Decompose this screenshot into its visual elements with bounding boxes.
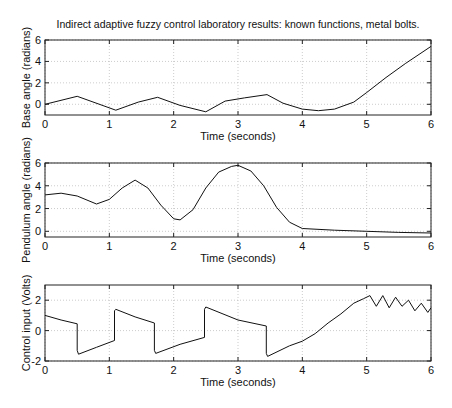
x-tick-label: 2	[171, 364, 177, 376]
x-axis-label: Time (seconds)	[200, 252, 275, 264]
x-tick-label: 5	[364, 364, 370, 376]
y-tick-label: 6	[35, 157, 41, 169]
y-tick-label: 4	[35, 55, 41, 67]
x-tick-label: 6	[428, 364, 434, 376]
panel-control-input: 0123456-202Time (seconds)Control input (…	[20, 275, 434, 388]
y-tick-label: 0	[35, 225, 41, 237]
y-tick-label: 2	[35, 203, 41, 215]
figure-canvas: Indirect adaptive fuzzy control laborato…	[0, 0, 452, 408]
y-tick-label: 0	[35, 98, 41, 110]
y-tick-label: 0	[35, 325, 41, 337]
x-tick-label: 6	[428, 118, 434, 130]
x-tick-label: 1	[106, 364, 112, 376]
figure-title: Indirect adaptive fuzzy control laborato…	[56, 18, 419, 30]
x-tick-label: 2	[171, 240, 177, 252]
y-tick-label: 4	[35, 180, 41, 192]
x-tick-label: 3	[235, 118, 241, 130]
x-tick-label: 3	[235, 240, 241, 252]
y-axis-label: Control input (Volts)	[20, 275, 32, 372]
panel-base-angle: 01234560246Time (seconds)Base angle (rad…	[20, 27, 434, 142]
x-tick-label: 4	[299, 364, 305, 376]
x-tick-label: 1	[106, 240, 112, 252]
x-tick-label: 4	[299, 118, 305, 130]
x-tick-label: 4	[299, 240, 305, 252]
y-tick-label: 2	[35, 77, 41, 89]
x-tick-label: 5	[364, 240, 370, 252]
panel-pendulum-angle: 01234560246Time (seconds)Pendulum angle …	[20, 137, 434, 264]
x-tick-label: 0	[42, 364, 48, 376]
y-axis-label: Pendulum angle (radians)	[20, 137, 32, 263]
axes-frame	[45, 285, 431, 361]
y-axis-label: Base angle (radians)	[20, 27, 32, 129]
x-tick-label: 5	[364, 118, 370, 130]
x-tick-label: 0	[42, 118, 48, 130]
x-tick-label: 2	[171, 118, 177, 130]
y-tick-label: -2	[31, 355, 41, 367]
x-tick-label: 3	[235, 364, 241, 376]
x-axis-label: Time (seconds)	[200, 376, 275, 388]
x-tick-label: 0	[42, 240, 48, 252]
x-tick-label: 6	[428, 240, 434, 252]
series-line	[45, 296, 431, 357]
x-tick-label: 1	[106, 118, 112, 130]
x-axis-label: Time (seconds)	[200, 130, 275, 142]
y-tick-label: 6	[35, 34, 41, 46]
y-tick-label: 2	[35, 294, 41, 306]
